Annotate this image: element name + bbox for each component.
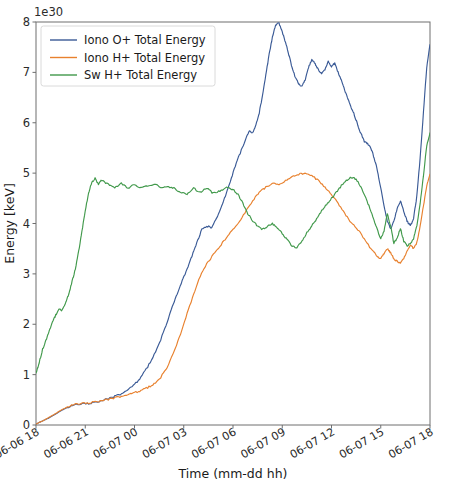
y-tick-label: 5 <box>23 166 30 180</box>
x-tick-label: 06-07 03 <box>140 425 189 461</box>
x-tick-label: 06-06 21 <box>41 425 90 461</box>
series-line-2 <box>36 133 430 373</box>
x-tick-label: 06-07 09 <box>238 425 287 461</box>
y-axis-offset-text: 1e30 <box>34 5 63 19</box>
legend-label-0: Iono O+ Total Energy <box>84 33 206 47</box>
y-tick-label: 1 <box>23 368 30 382</box>
legend-label-1: Iono H+ Total Energy <box>84 51 205 65</box>
y-tick-label: 8 <box>23 15 30 29</box>
chart-figure: 01234567806-06 1806-06 2106-07 0006-07 0… <box>0 0 459 484</box>
x-tick-label: 06-07 12 <box>288 425 337 461</box>
y-tick-label: 7 <box>23 65 30 79</box>
legend-label-2: Sw H+ Total Energy <box>84 68 197 82</box>
x-tick-label: 06-07 00 <box>91 425 140 461</box>
chart-legend: Iono O+ Total EnergyIono H+ Total Energy… <box>41 26 215 86</box>
energy-time-line-chart: 01234567806-06 1806-06 2106-07 0006-07 0… <box>0 0 459 484</box>
y-tick-label: 3 <box>23 267 30 281</box>
x-tick-label: 06-07 18 <box>386 425 435 461</box>
y-tick-label: 4 <box>23 217 30 231</box>
y-axis-title: Energy [keV] <box>2 183 17 264</box>
y-tick-label: 6 <box>23 116 30 130</box>
x-tick-label: 06-07 15 <box>337 425 386 461</box>
x-tick-label: 06-06 18 <box>0 425 42 461</box>
x-axis-title: Time (mm-dd hh) <box>178 466 288 481</box>
y-tick-label: 2 <box>23 317 30 331</box>
x-tick-label: 06-07 06 <box>189 425 238 461</box>
